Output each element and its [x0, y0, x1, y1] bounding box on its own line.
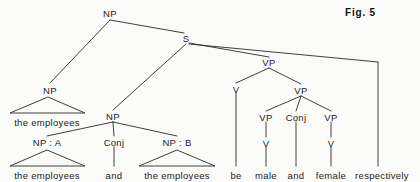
figure-caption: Fig. 5: [345, 7, 376, 18]
tree-leaf-leaf-female: female: [316, 170, 346, 181]
tree-node-vp-top: VP: [262, 57, 275, 68]
tree-edge: [113, 122, 114, 136]
tree-edge: [113, 44, 186, 110]
tree-node-np-b: NP : B: [162, 137, 191, 148]
tree-node-np-left: NP: [43, 85, 57, 96]
tree-triangle: [139, 150, 215, 166]
tree-node-conj-left: Conj: [104, 137, 125, 148]
syntax-tree-diagram: NPNPSNPNP : AConjNP : BVPVVPVPConjVPVV t…: [0, 0, 420, 182]
tree-edge: [266, 96, 301, 111]
tree-node-np-a: NP : A: [33, 137, 62, 148]
tree-node-v-be: V: [233, 84, 240, 95]
tree-node-np-root: NP: [103, 8, 117, 19]
tree-leaf-leaf-respect: respectively: [355, 170, 409, 181]
tree-edge: [269, 68, 301, 84]
tree-node-vp-female: VP: [324, 112, 337, 123]
tree-leaf-leaf-male: male: [255, 170, 277, 181]
tree-node-s-node: S: [183, 33, 190, 44]
tree-leaf-leaf-and-left: and: [106, 170, 123, 181]
tree-edge: [113, 122, 177, 136]
tree-triangle: [10, 97, 85, 113]
tree-edge: [110, 20, 184, 33]
tree-triangle-layer: [10, 97, 215, 166]
tree-edge: [50, 20, 110, 83]
tree-node-v-female: V: [328, 138, 335, 149]
tree-node-v-male: V: [263, 138, 270, 149]
tree-edge: [236, 68, 269, 83]
tree-leaf-leaf-emp-a: the employees: [14, 170, 80, 181]
tree-edge: [301, 96, 331, 111]
tree-edge: [189, 44, 378, 62]
tree-triangle: [10, 150, 85, 166]
tree-node-np-mid: NP: [106, 111, 120, 122]
tree-node-conj-right: Conj: [286, 112, 307, 123]
tree-leaf-leaf-emp-b: the employees: [144, 170, 210, 181]
figure-canvas: NPNPSNPNP : AConjNP : BVPVVPVPConjVPVV t…: [0, 0, 420, 182]
tree-leaf-layer: the employeesthe employeesandthe employe…: [14, 117, 409, 181]
tree-leaf-leaf-and-right: and: [288, 170, 305, 181]
tree-node-vp-coord: VP: [294, 85, 307, 96]
tree-leaf-leaf-emp-top: the employees: [14, 117, 80, 128]
tree-leaf-leaf-be: be: [230, 170, 241, 181]
tree-node-vp-male: VP: [259, 112, 272, 123]
